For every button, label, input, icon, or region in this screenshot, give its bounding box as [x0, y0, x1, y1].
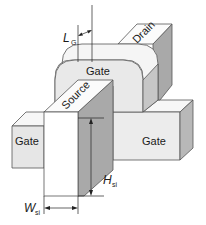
fin-width-dimension: W si — [24, 196, 78, 216]
wsi-subscript: si — [35, 209, 41, 216]
gate-right-label: Gate — [142, 135, 166, 147]
hsi-symbol: H — [103, 173, 112, 187]
hsi-subscript: si — [112, 181, 118, 188]
gate-top-label: Gate — [86, 65, 110, 77]
gate-left-label: Gate — [15, 135, 39, 147]
lg-symbol: L — [63, 31, 70, 45]
finfet-diagram: Gate Gate Gate Source Drain L G H si W s… — [0, 0, 206, 225]
lg-subscript: G — [71, 39, 76, 46]
